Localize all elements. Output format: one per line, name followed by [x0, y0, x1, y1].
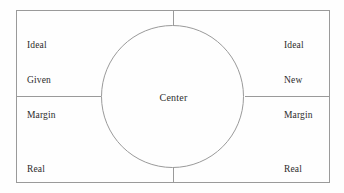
- quadrant-top-right-line-3: Margin: [284, 110, 313, 122]
- quadrant-label-bottom-left: Real Given Margin: [27, 140, 56, 193]
- quadrant-top-right-line-1: Ideal: [284, 40, 313, 52]
- center-circle-label: Center: [102, 26, 245, 169]
- quadrant-bottom-right-line-1: Real: [284, 164, 313, 176]
- divider-vertical-bottom: [173, 167, 174, 183]
- quadrant-top-left-line-2: Given: [27, 75, 56, 87]
- quadrant-label-bottom-right: Real New Margin: [284, 140, 313, 193]
- divider-vertical-top: [173, 11, 174, 26]
- margin-quadrant-diagram: Center Ideal Given Margin Ideal New Marg…: [0, 0, 344, 193]
- quadrant-top-right-line-2: New: [284, 75, 313, 87]
- quadrant-label-top-right: Ideal New Margin: [284, 16, 313, 146]
- quadrant-bottom-left-line-1: Real: [27, 164, 56, 176]
- quadrant-top-left-line-3: Margin: [27, 110, 56, 122]
- quadrant-label-top-left: Ideal Given Margin: [27, 16, 56, 146]
- quadrant-top-left-line-1: Ideal: [27, 40, 56, 52]
- center-circle: Center: [101, 25, 244, 168]
